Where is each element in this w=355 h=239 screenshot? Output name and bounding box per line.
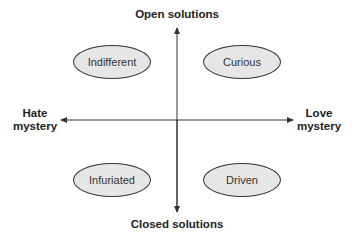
axis-label-bottom: Closed solutions <box>122 218 232 231</box>
axis-label-top: Open solutions <box>127 8 227 21</box>
axis-label-right-line1: Love <box>294 107 344 120</box>
quadrant-indifferent: Indifferent <box>73 45 151 79</box>
axis-label-left: Hate mystery <box>10 107 60 133</box>
quadrant-driven: Driven <box>203 163 281 197</box>
axis-label-left-line1: Hate <box>10 107 60 120</box>
quadrant-infuriated: Infuriated <box>73 163 151 197</box>
axis-label-left-line2: mystery <box>10 120 60 133</box>
axis-label-right-line2: mystery <box>294 120 344 133</box>
quadrant-curious: Curious <box>203 45 281 79</box>
axis-label-right: Love mystery <box>294 107 344 133</box>
